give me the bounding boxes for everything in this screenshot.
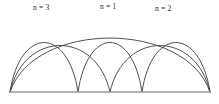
mode-label-n3-text: n = 3 [33, 3, 49, 12]
figure-container: n = 3 n = 1 n = 2 [0, 0, 219, 104]
harmonic-arch-svg [0, 0, 219, 104]
mode-label-n2-text: n = 2 [155, 4, 171, 13]
mode-label-n2: n = 2 [155, 5, 171, 13]
arch-curve-n2 [10, 46, 210, 93]
arch-curve-n1 [10, 38, 210, 92]
mode-label-n1-text: n = 1 [100, 2, 116, 11]
mode-label-n3: n = 3 [33, 4, 49, 12]
mode-label-n1: n = 1 [100, 3, 116, 11]
